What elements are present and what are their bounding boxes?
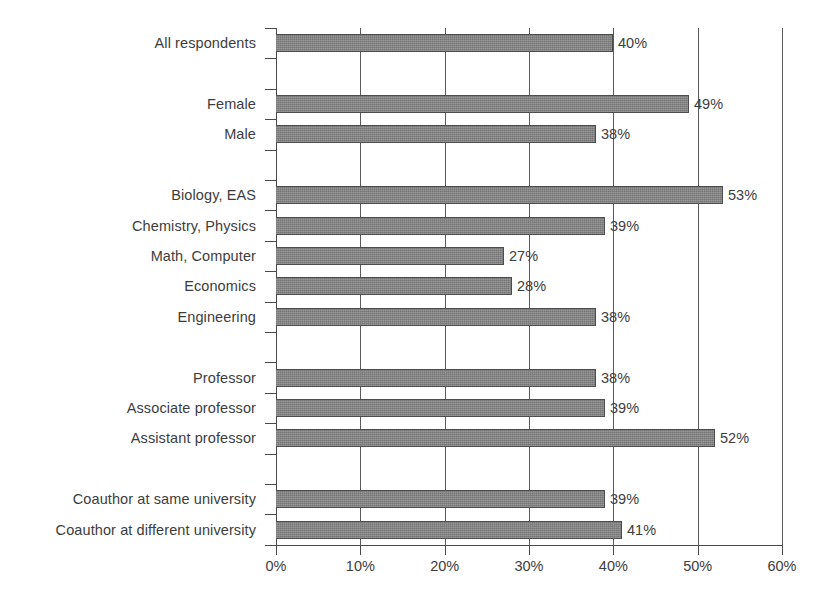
bar [276,308,596,326]
bar-value-label: 40% [618,34,647,52]
category-label: Male [224,126,256,142]
category-label-column: All respondentsFemaleMaleBiology, EASChe… [0,0,266,611]
bar-value-label: 53% [728,186,757,204]
y-tick-mark [265,332,276,333]
x-tick-mark [529,546,530,555]
y-tick-mark [265,362,276,363]
x-tick-label: 0% [266,558,287,575]
x-tick-label: 20% [430,558,459,575]
x-tick-label: 60% [767,558,796,575]
bar-value-label: 39% [610,399,639,417]
category-label: Associate professor [127,400,256,416]
category-label: Assistant professor [131,430,256,446]
y-tick-mark [265,423,276,424]
bar-value-label: 38% [601,369,630,387]
bar-value-label: 52% [720,429,749,447]
y-tick-mark [265,393,276,394]
x-tick-mark [276,546,277,555]
bar-chart: All respondentsFemaleMaleBiology, EASChe… [0,0,829,611]
y-tick-mark [265,180,276,181]
category-label: Chemistry, Physics [132,218,256,234]
category-label: Economics [184,278,256,294]
bar-value-label: 38% [601,125,630,143]
x-tick-mark [613,546,614,555]
bar [276,34,613,52]
bar [276,399,605,417]
category-label: Professor [193,370,256,386]
y-tick-mark [265,89,276,90]
y-tick-mark [265,454,276,455]
bar-value-label: 49% [694,95,723,113]
bar [276,521,622,539]
x-tick-label: 30% [514,558,543,575]
category-label: Coauthor at same university [73,491,256,507]
bar [276,429,715,447]
bar [276,490,605,508]
y-tick-mark [265,271,276,272]
y-tick-mark [265,58,276,59]
bar [276,217,605,235]
category-label: Coauthor at different university [56,522,256,538]
x-tick-mark [360,546,361,555]
x-tick-label: 40% [599,558,628,575]
bar [276,125,596,143]
bar [276,95,689,113]
category-label: Math, Computer [151,248,256,264]
bar-value-label: 27% [509,247,538,265]
category-label: All respondents [155,35,256,51]
y-tick-mark [265,119,276,120]
y-tick-mark [265,545,276,546]
y-tick-mark [265,210,276,211]
category-label: Biology, EAS [171,187,256,203]
y-tick-mark [265,150,276,151]
bar-value-label: 38% [601,308,630,326]
x-tick-label: 50% [683,558,712,575]
y-tick-mark [265,241,276,242]
category-label: Female [207,96,256,112]
bar-value-label: 39% [610,490,639,508]
x-tick-label: 10% [346,558,375,575]
x-tick-mark [782,546,783,555]
bar [276,277,512,295]
gridline-60 [782,28,783,545]
y-tick-mark [265,28,276,29]
category-label: Engineering [178,309,257,325]
bar-value-label: 41% [627,521,656,539]
bar [276,369,596,387]
y-tick-mark [265,302,276,303]
y-tick-mark [265,514,276,515]
y-tick-mark [265,484,276,485]
x-tick-mark [698,546,699,555]
bar [276,247,504,265]
bar [276,186,723,204]
x-tick-mark [445,546,446,555]
bar-value-label: 39% [610,217,639,235]
bar-value-label: 28% [517,277,546,295]
